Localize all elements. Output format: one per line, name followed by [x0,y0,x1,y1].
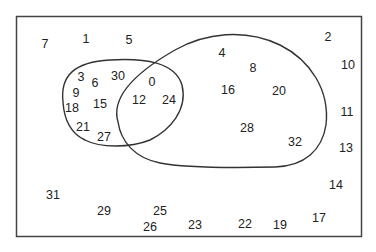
element-label-23: 23 [188,218,202,232]
element-label-4: 4 [219,46,226,60]
element-label-25: 25 [153,204,167,218]
element-label-16: 16 [221,83,235,97]
element-label-31: 31 [46,188,60,202]
element-label-5: 5 [126,33,133,47]
element-labels: 7152104816201128321336300918151224212731… [42,30,355,234]
element-label-7: 7 [42,37,49,51]
element-label-19: 19 [273,218,287,232]
element-label-2: 2 [325,30,332,44]
element-label-24: 24 [162,93,176,107]
element-label-9: 9 [73,86,80,100]
element-label-15: 15 [93,97,107,111]
universe-frame [17,17,362,237]
element-label-29: 29 [97,204,111,218]
element-label-6: 6 [92,76,99,90]
element-label-13: 13 [339,141,353,155]
element-label-3: 3 [78,70,85,84]
element-label-28: 28 [240,121,254,135]
element-label-10: 10 [341,58,355,72]
element-label-32: 32 [288,135,302,149]
element-label-18: 18 [65,101,79,115]
element-label-8: 8 [250,61,257,75]
venn-diagram: 7152104816201128321336300918151224212731… [0,0,376,252]
element-label-1: 1 [83,32,90,46]
element-label-17: 17 [312,211,326,225]
element-label-14: 14 [329,178,343,192]
element-label-26: 26 [143,220,157,234]
element-label-12: 12 [132,93,146,107]
element-label-20: 20 [272,84,286,98]
element-label-21: 21 [76,120,90,134]
element-label-0: 0 [149,75,156,89]
element-label-30: 30 [111,69,125,83]
element-label-11: 11 [341,105,354,119]
element-label-22: 22 [238,217,252,231]
element-label-27: 27 [97,130,111,144]
